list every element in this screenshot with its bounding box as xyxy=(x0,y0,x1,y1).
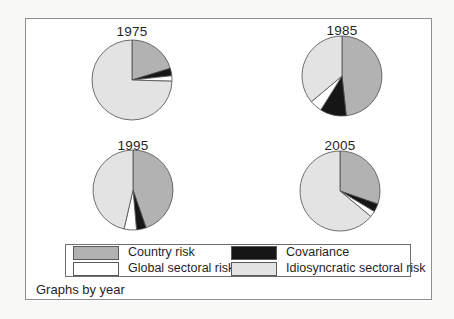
plot-frame: 1975 1985 1995 2005 Country risk Covaria… xyxy=(25,18,432,300)
legend-box: Country risk Covariance Global sectoral … xyxy=(65,244,411,277)
legend-item-global-sectoral-risk: Global sectoral risk xyxy=(73,262,231,276)
stata-graph-window: 1975 1985 1995 2005 Country risk Covaria… xyxy=(0,0,454,319)
pie-chart-1975 xyxy=(90,38,174,122)
legend-swatch-idiosyncratic-sectoral-risk xyxy=(231,262,277,276)
legend-item-idiosyncratic-sectoral-risk: Idiosyncratic sectoral risk xyxy=(231,262,426,276)
pie-chart-1995 xyxy=(91,148,175,232)
legend-swatch-covariance xyxy=(231,246,277,260)
graph-note: Graphs by year xyxy=(36,282,125,297)
pie-slice-idiosyncratic-sectoral-risk xyxy=(93,150,133,229)
pie-slice-country-risk xyxy=(342,36,382,116)
legend-item-country-risk: Country risk xyxy=(73,246,231,260)
pie-chart-1985 xyxy=(300,34,384,118)
pie-title-1975: 1975 xyxy=(82,25,182,39)
legend-label-country-risk: Country risk xyxy=(128,246,195,259)
pie-chart-2005 xyxy=(298,149,382,233)
legend-item-covariance: Covariance xyxy=(231,246,426,260)
legend-label-covariance: Covariance xyxy=(286,246,349,259)
legend-label-global-sectoral-risk: Global sectoral risk xyxy=(128,262,234,275)
legend-label-idiosyncratic-sectoral-risk: Idiosyncratic sectoral risk xyxy=(286,262,426,275)
legend-swatch-global-sectoral-risk xyxy=(73,262,119,276)
legend-swatch-country-risk xyxy=(73,246,119,260)
